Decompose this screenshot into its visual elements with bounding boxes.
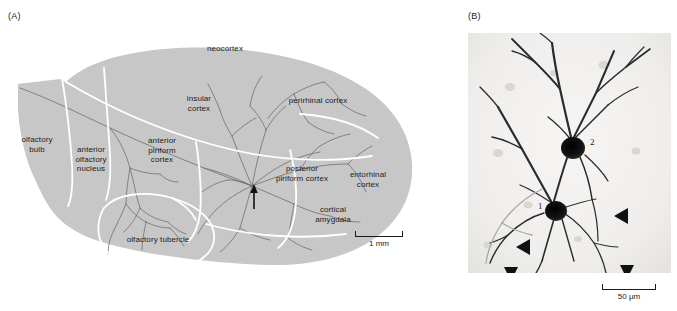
scalebar-b-line <box>602 283 656 290</box>
cell-2-number-label: 2 <box>590 137 595 147</box>
scalebar-a-caption: 1 mm <box>355 239 403 248</box>
micrograph-svg <box>468 33 671 273</box>
panel-b-label: (B) <box>468 11 481 21</box>
panel-a-brain-diagram: neocortex insular cortex perirhinal cort… <box>0 22 460 292</box>
scalebar-b-caption: 50 µm <box>602 292 656 301</box>
cell-1-soma <box>545 201 567 221</box>
scalebar-panel-a: 1 mm <box>355 230 403 248</box>
panel-b-micrograph: 1 2 <box>468 33 671 273</box>
cell-1-number-label: 1 <box>538 201 543 211</box>
figure-container: (A) <box>0 0 677 311</box>
brain-silhouette <box>18 48 412 266</box>
scalebar-panel-b: 50 µm <box>602 283 656 301</box>
brain-diagram-svg <box>0 22 460 292</box>
cell-2-soma <box>561 137 585 159</box>
scalebar-a-line <box>355 230 403 237</box>
panel-a-label: (A) <box>8 11 21 21</box>
